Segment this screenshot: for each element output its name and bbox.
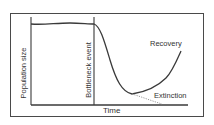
bottleneck-diagram: Population size Bottleneck event Time Re…	[0, 0, 214, 125]
extinction-label: Extinction	[154, 92, 187, 100]
y-axis-label: Population size	[20, 48, 28, 99]
bottleneck-event-label: Bottleneck event	[85, 42, 93, 97]
population-curve	[31, 23, 181, 94]
x-axis-label: Time	[103, 107, 120, 115]
recovery-label: Recovery	[150, 40, 182, 48]
